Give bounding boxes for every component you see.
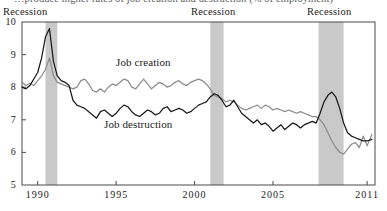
x-tick-label: 2000 (173, 189, 217, 200)
x-tick-label: 1995 (94, 189, 138, 200)
recession-band-2 (210, 22, 223, 185)
y-tick-label: 9 (0, 49, 16, 60)
line-chart-plot (0, 0, 387, 211)
figure-caption: …produce higher rates of job creation an… (14, 0, 384, 5)
y-tick-label: 5 (0, 179, 16, 190)
y-tick-label: 10 (0, 16, 16, 27)
series-label-job-creation: Job creation (116, 56, 171, 68)
recession-label-2: Recession (191, 6, 235, 17)
y-tick-label: 8 (0, 81, 16, 92)
figure-container: …produce higher rates of job creation an… (0, 0, 387, 211)
recession-label-3: Recession (307, 6, 351, 17)
recession-band-3 (319, 22, 344, 185)
recession-bands (46, 22, 344, 185)
y-tick-label: 7 (0, 114, 16, 125)
y-tick-label: 6 (0, 146, 16, 157)
x-tick-label: 2011 (345, 189, 387, 200)
series-label-job-destruction: Job destruction (104, 118, 172, 130)
x-tick-label: 1990 (16, 189, 60, 200)
axis-ticks (22, 55, 367, 185)
x-tick-label: 2005 (251, 189, 295, 200)
